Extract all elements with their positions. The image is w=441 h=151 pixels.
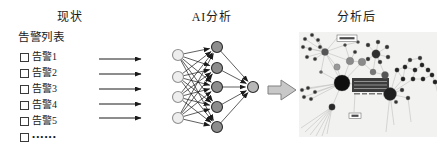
graph-node: [386, 55, 390, 59]
diagram-figure: 现状 AI分析 分析后 告警列表 告警1告警2告警3告警4告警5••••••: [0, 0, 441, 151]
nn-edge: [222, 91, 247, 105]
graph-node: [313, 57, 317, 61]
graph-label-text-mark: [340, 37, 355, 39]
graph-node: [301, 45, 305, 49]
alert-item-label: ••••••: [32, 133, 57, 142]
graph-node: [309, 97, 313, 101]
graph-node: [430, 73, 434, 77]
section-header-after-analysis: 分析后: [337, 7, 376, 25]
nn-edge: [222, 71, 247, 84]
nn-node-output: [248, 82, 259, 93]
checkbox-icon: [20, 101, 29, 110]
graph-node: [346, 57, 354, 65]
graph-node: [426, 68, 430, 72]
graph-node: [316, 38, 320, 42]
graph-node: [411, 77, 415, 81]
graph-node: [394, 100, 398, 104]
alert-item-label: 告警1: [32, 52, 57, 62]
nn-node-input: [173, 92, 184, 103]
nn-node-input: [173, 72, 184, 83]
graph-node: [322, 49, 329, 56]
graph-node: [378, 60, 382, 64]
checkbox-icon: [20, 53, 29, 62]
graph-node: [400, 88, 404, 92]
checkbox-icon: [20, 133, 29, 142]
graph-node: [319, 70, 322, 73]
section-header-current-state: 现状: [57, 7, 83, 25]
graph-node: [353, 50, 357, 54]
nn-node-hidden: [212, 102, 223, 113]
network-graph-panel: [299, 32, 437, 137]
graph-node: [418, 56, 422, 60]
graph-caption-mark: [354, 93, 360, 95]
block-arrow-icon: [268, 80, 296, 100]
alert-list: 告警1告警2告警3告警4告警5••••••: [20, 49, 57, 145]
nn-edge: [182, 72, 211, 93]
graph-node: [421, 77, 425, 81]
graph-node: [329, 104, 335, 110]
graph-node: [300, 88, 304, 92]
alert-list-item: ••••••: [20, 129, 57, 145]
graph-node: [313, 90, 317, 94]
alert-item-label: 告警5: [32, 116, 57, 126]
graph-node: [318, 45, 322, 49]
graph-node: [306, 86, 310, 90]
graph-caption-mark: [369, 93, 375, 95]
graph-caption-mark: [377, 93, 382, 95]
graph-node: [343, 43, 346, 46]
graph-node: [334, 75, 350, 91]
section-header-ai-analysis: AI分析: [192, 7, 233, 25]
nn-node-hidden: [212, 82, 223, 93]
graph-node: [302, 95, 306, 99]
graph-node: [420, 63, 424, 67]
graph-node: [385, 45, 389, 49]
alert-list-item: 告警4: [20, 97, 57, 113]
alert-item-label: 告警3: [32, 84, 57, 94]
alert-list-item: 告警3: [20, 81, 57, 97]
graph-node: [382, 72, 389, 79]
graph-caption-mark: [362, 93, 367, 95]
graph-node: [384, 88, 397, 101]
checkbox-icon: [20, 117, 29, 126]
checkbox-icon: [20, 69, 29, 78]
graph-node: [370, 69, 376, 75]
nn-edge: [181, 81, 212, 121]
nn-node-hidden: [212, 122, 223, 133]
graph-node: [413, 68, 417, 72]
graph-node: [433, 80, 437, 84]
graph-node: [401, 77, 405, 81]
graph-node: [310, 33, 314, 37]
graph-node: [308, 47, 312, 51]
graph-node: [395, 68, 399, 72]
nn-edge: [181, 53, 212, 93]
alert-list-item: 告警1: [20, 49, 57, 65]
graph-node: [366, 43, 370, 47]
graph-node: [366, 57, 370, 61]
graph-node: [406, 96, 410, 100]
graph-node: [372, 50, 380, 58]
graph-node: [303, 37, 307, 41]
graph-node: [408, 58, 412, 62]
graph-node: [376, 40, 380, 44]
checkbox-icon: [20, 85, 29, 94]
alert-list-title: 告警列表: [18, 28, 64, 44]
alert-item-label: 告警2: [32, 68, 57, 78]
alert-item-label: 告警4: [32, 100, 57, 110]
nn-node-hidden: [212, 63, 223, 74]
graph-node: [358, 58, 366, 66]
network-graph: [299, 32, 437, 137]
nn-node-hidden: [212, 42, 223, 53]
graph-node: [403, 65, 407, 69]
alert-list-item: 告警5: [20, 113, 57, 129]
nn-node-input: [173, 113, 184, 124]
neural-network-diagram: [95, 35, 305, 145]
graph-node: [334, 64, 340, 70]
nn-edge: [183, 49, 209, 54]
alert-list-item: 告警2: [20, 65, 57, 81]
graph-node: [305, 55, 309, 59]
graph-label-text-mark: [352, 115, 359, 117]
nn-node-input: [173, 50, 184, 61]
nn-edge: [183, 119, 209, 125]
